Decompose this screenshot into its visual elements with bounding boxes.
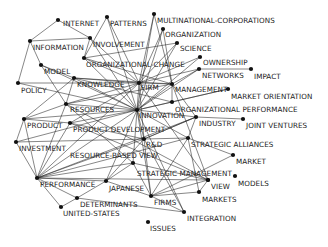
node-label-management: MANAGEMENT — [175, 86, 227, 93]
edge-involvement-organizational-change — [84, 38, 90, 58]
node-label-knowledge: KNOWLEDGE — [77, 81, 125, 88]
node-joint-ventures — [241, 117, 245, 121]
node-performance — [35, 176, 39, 180]
node-determinants — [75, 196, 79, 200]
node-label-model: MODEL — [44, 68, 70, 75]
node-label-patterns: PATTERNS — [110, 20, 147, 27]
keyword-network-diagram: INTERNETPATTERNSMULTINATIONAL-CORPORATIO… — [0, 0, 328, 247]
node-label-firm: FIRM — [141, 84, 159, 91]
node-product — [22, 117, 26, 121]
edge-investment-r-and-d — [16, 139, 144, 142]
node-label-science: SCIENCE — [180, 45, 212, 52]
node-label-joint-ventures: JOINT VENTURES — [246, 122, 307, 129]
node-management — [170, 82, 174, 86]
node-japanese — [104, 179, 108, 183]
node-resources — [64, 102, 68, 106]
node-strategic-alliances — [186, 136, 190, 140]
node-model — [39, 63, 43, 67]
node-label-market: MARKET — [236, 158, 266, 165]
node-label-view: VIEW — [211, 183, 230, 190]
node-label-multinational-corporations: MULTINATIONAL-CORPORATIONS — [157, 17, 275, 24]
node-label-organization: ORGANIZATION — [165, 31, 221, 38]
node-market — [231, 153, 235, 157]
edge-organization-firm — [139, 29, 163, 83]
node-label-organizational-change: ORGANIZATIONAL-CHANGE — [86, 61, 185, 68]
node-investment — [14, 140, 18, 144]
node-label-industry: INDUSTRY — [199, 120, 236, 127]
node-impact — [249, 67, 253, 71]
node-label-r-and-d: R&D — [146, 141, 162, 148]
node-integration — [182, 210, 186, 214]
node-label-organizational-performance: ORGANIZATIONAL PERFORMANCE — [175, 106, 298, 113]
edge-determinants-united-states — [61, 198, 77, 207]
node-information — [28, 39, 32, 43]
node-label-involvement: INVOLVEMENT — [93, 41, 145, 48]
node-label-innovation: INNOVATION — [139, 112, 184, 119]
node-label-united-states: UNITED-STATES — [63, 210, 120, 217]
node-science — [175, 41, 179, 45]
node-policy — [16, 81, 20, 85]
node-knowledge — [72, 76, 76, 80]
node-label-models: MODELS — [238, 180, 269, 187]
node-models — [233, 174, 237, 178]
node-label-product-development: PRODUCT DEVELOPMENT — [73, 126, 165, 133]
node-label-policy: POLICY — [21, 87, 47, 94]
node-patterns — [105, 15, 109, 19]
node-label-impact: IMPACT — [254, 73, 281, 80]
node-resource-based-view — [131, 161, 135, 165]
edge-knowledge-product — [24, 78, 74, 119]
node-label-japanese: JAPANESE — [109, 185, 144, 192]
node-multinational-corporations — [152, 12, 156, 16]
edge-information-policy — [18, 41, 30, 83]
edge-firm-innovation — [137, 83, 139, 110]
edge-strategic-management-markets — [199, 180, 208, 192]
node-view — [206, 178, 210, 182]
node-product-development — [68, 121, 72, 125]
node-ownership — [198, 55, 202, 59]
node-label-internet: INTERNET — [63, 20, 99, 27]
node-label-resource-based-view: RESOURCE-BASED VIEW — [70, 152, 158, 159]
edge-networks-management — [172, 69, 199, 84]
node-label-integration: INTEGRATION — [187, 215, 236, 222]
node-label-strategic-alliances: STRATEGIC ALLIANCES — [191, 141, 273, 148]
node-label-networks: NETWORKS — [202, 72, 244, 79]
node-label-resources: RESOURCES — [70, 106, 114, 113]
node-industry — [194, 115, 198, 119]
node-markets — [197, 190, 201, 194]
edge-product-development-firm — [70, 83, 139, 123]
node-label-performance: PERFORMANCE — [40, 181, 95, 188]
node-networks — [197, 67, 201, 71]
edge-product-investment — [16, 119, 24, 142]
node-label-product: PRODUCT — [27, 122, 63, 129]
edge-knowledge-resources — [66, 78, 74, 104]
node-label-strategic-management: STRATEGIC MANAGEMENT — [137, 170, 232, 177]
node-label-market-orientation: MARKET ORIENTATION — [231, 93, 312, 100]
edge-resources-product — [24, 104, 66, 119]
edge-information-involvement — [30, 38, 90, 41]
node-involvement — [88, 36, 92, 40]
node-label-markets: MARKETS — [202, 196, 237, 203]
node-label-information: INFORMATION — [33, 44, 84, 51]
edge-r-and-d-strategic-alliances — [144, 138, 188, 139]
node-label-ownership: OWNERSHIP — [203, 59, 248, 66]
node-label-determinants: DETERMINANTS — [80, 201, 138, 208]
node-internet — [56, 18, 60, 22]
node-firms — [149, 194, 153, 198]
node-organizational-performance — [170, 100, 174, 104]
edge-internet-information — [30, 20, 58, 41]
node-label-investment: INVESTMENT — [19, 145, 66, 152]
node-label-issues: ISSUES — [150, 225, 176, 232]
node-label-firms: FIRMS — [154, 199, 176, 206]
